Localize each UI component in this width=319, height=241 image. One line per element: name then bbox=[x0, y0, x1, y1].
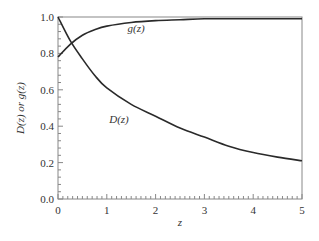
curve-dz bbox=[58, 17, 302, 161]
x-tick-label: 0 bbox=[55, 204, 61, 216]
plot-border bbox=[58, 17, 302, 199]
y-tick-label: 1.0 bbox=[40, 11, 54, 23]
curve-label: g(z) bbox=[128, 22, 145, 35]
x-tick-label: 2 bbox=[153, 204, 159, 216]
y-tick-label: 0.4 bbox=[40, 120, 54, 132]
y-axis-title: D(z) or g(z) bbox=[14, 82, 27, 135]
curve-gz bbox=[58, 19, 302, 57]
x-tick-label: 1 bbox=[104, 204, 110, 216]
y-tick-label: 0.0 bbox=[40, 193, 54, 205]
plot-frame bbox=[58, 17, 302, 199]
curves bbox=[58, 17, 302, 161]
x-axis-title: z bbox=[177, 216, 183, 228]
x-tick-label: 5 bbox=[299, 204, 305, 216]
y-tick-label: 0.2 bbox=[40, 157, 54, 169]
axis-ticks bbox=[58, 17, 302, 199]
curve-label: D(z) bbox=[108, 113, 129, 126]
x-tick-label: 4 bbox=[250, 204, 256, 216]
chart: 0123450.00.20.40.60.81.0g(z)D(z)zD(z) or… bbox=[0, 0, 319, 241]
y-tick-label: 0.8 bbox=[40, 47, 54, 59]
y-tick-label: 0.6 bbox=[40, 84, 54, 96]
x-tick-label: 3 bbox=[202, 204, 208, 216]
